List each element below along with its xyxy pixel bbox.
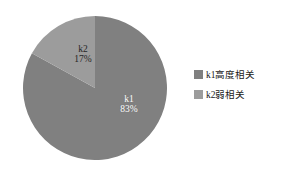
pie-svg <box>23 16 167 160</box>
pie-slice-label-k2: k2 17% <box>63 44 103 65</box>
pie-slice-label-k2-name: k2 <box>63 44 103 54</box>
pie-graphic: k2 17% k1 83% <box>23 16 167 160</box>
pie-slice-label-k2-percent: 17% <box>63 54 103 64</box>
pie-slice-label-k1: k1 83% <box>109 94 149 115</box>
legend-label-k2: k2弱相关 <box>206 87 245 101</box>
legend-item-k1[interactable]: k1高度相关 <box>194 64 280 84</box>
pie-slice-label-k1-percent: 83% <box>109 104 149 114</box>
pie-slice-label-k1-name: k1 <box>109 94 149 104</box>
legend-swatch-k2-icon <box>194 90 203 99</box>
legend-label-k1: k1高度相关 <box>206 67 255 81</box>
legend-swatch-k1-icon <box>194 70 203 79</box>
legend-item-k2[interactable]: k2弱相关 <box>194 84 280 104</box>
chart-legend: k1高度相关 k2弱相关 <box>194 64 280 104</box>
pie-chart: k2 17% k1 83% k1高度相关 k2弱相关 <box>0 0 281 173</box>
